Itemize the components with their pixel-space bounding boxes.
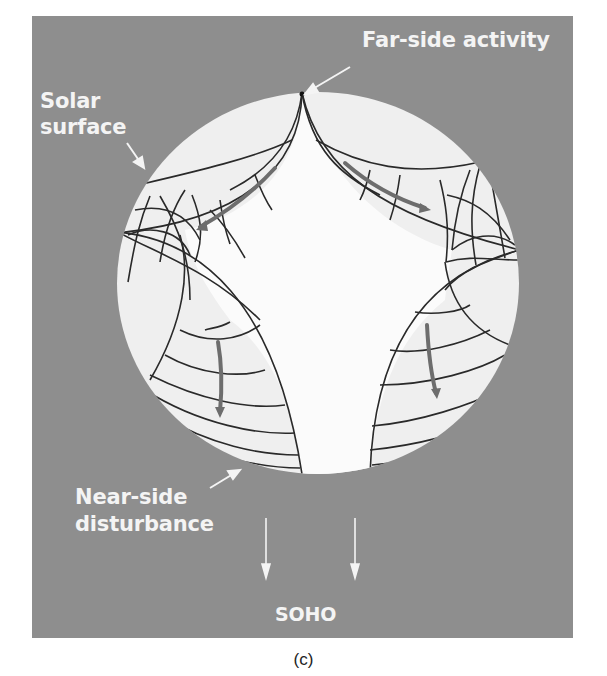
soho-label: SOHO (275, 602, 336, 626)
far-side-activity-label: Far-side activity (362, 28, 550, 52)
solar-surface-label-line2: surface (40, 115, 126, 139)
figure-caption: (c) (0, 650, 607, 670)
solar-surface-label-line1: Solar (40, 89, 100, 113)
near-side-disturbance-label-line2: disturbance (75, 512, 214, 536)
near-side-pointer-arrow (210, 474, 233, 488)
far-side-pointer-arrow (311, 67, 350, 90)
near-side-disturbance-label-line1: Near-side (75, 485, 187, 509)
